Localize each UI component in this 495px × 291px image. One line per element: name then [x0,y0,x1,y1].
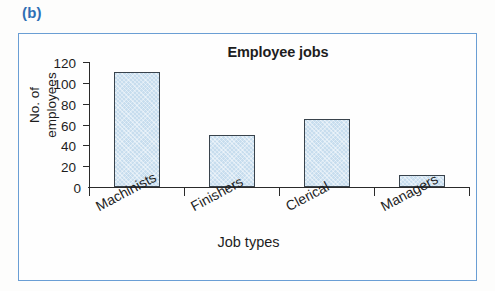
x-tick [374,187,375,196]
y-tick-label: 100 [53,76,76,91]
bar-series [89,62,469,187]
y-tick-label: 60 [61,118,76,133]
plot-area: 020406080100120 MachinistsFinishersCleri… [89,62,469,187]
figure-page: (b) Employee jobs No. of employees 02040… [0,0,495,291]
y-tick-label: 0 [73,181,81,196]
bar-machinists [114,72,160,187]
y-tick-label: 40 [61,139,76,154]
chart-frame: Employee jobs No. of employees 020406080… [18,33,477,281]
chart-title: Employee jobs [163,44,393,60]
x-tick [279,187,280,196]
x-tick [469,187,470,196]
x-axis-label: Job types [19,234,478,250]
x-tick [184,187,185,196]
y-tick-label: 20 [61,160,76,175]
y-tick-label: 80 [61,97,76,112]
y-tick-label: 120 [53,56,76,71]
bar-clerical [304,119,350,187]
figure-label: (b) [22,4,42,21]
x-tick [89,187,90,196]
y-axis-label-line1: No. of [26,50,43,160]
